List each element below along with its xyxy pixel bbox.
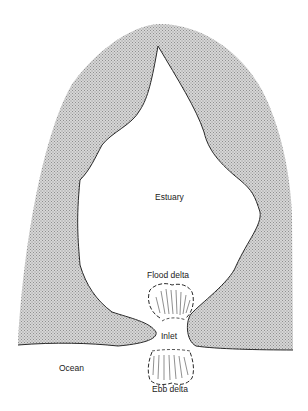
land-mass	[18, 24, 293, 350]
ebb-delta-label: Ebb delta	[152, 384, 188, 394]
inlet-label: Inlet	[161, 331, 178, 341]
ebb-delta	[148, 350, 193, 385]
flood-delta-label: Flood delta	[147, 270, 189, 280]
estuary-label: Estuary	[155, 192, 185, 202]
flood-delta	[148, 284, 193, 321]
ocean-label: Ocean	[59, 363, 84, 373]
estuary-diagram: Estuary Flood delta Inlet Ocean Ebb delt…	[0, 0, 308, 411]
